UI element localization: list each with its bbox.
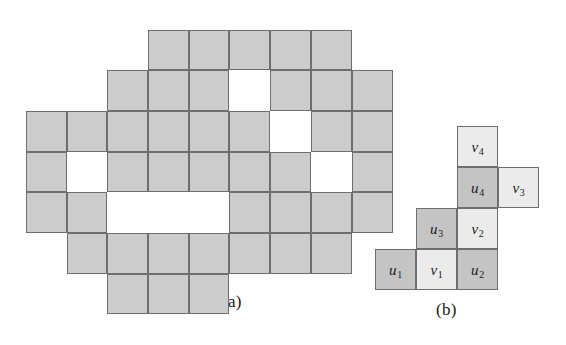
labeled-cell-v3: v3	[498, 167, 539, 208]
panel-b-caption: (b)	[436, 300, 457, 320]
cell-label-v3: v3	[499, 180, 538, 195]
grid-filled-cell	[189, 111, 229, 152]
grid-filled-cell	[189, 30, 229, 70]
grid-filled-cell	[189, 70, 229, 111]
grid-filled-cell	[229, 192, 270, 233]
grid-filled-cell	[270, 30, 311, 70]
grid-filled-cell	[352, 152, 393, 192]
cell-label-v1: v1	[417, 262, 456, 277]
grid-filled-cell	[107, 274, 148, 314]
grid-filled-cell	[270, 152, 311, 192]
grid-filled-cell	[311, 70, 352, 111]
grid-filled-cell	[148, 152, 189, 192]
grid-filled-cell	[270, 233, 311, 274]
labeled-cell-u3: u3	[416, 208, 457, 249]
grid-filled-cell	[107, 233, 148, 274]
grid-filled-cell	[189, 233, 229, 274]
grid-filled-cell	[229, 111, 270, 152]
grid-filled-cell	[352, 111, 393, 152]
labeled-cell-v1: v1	[416, 249, 457, 290]
grid-filled-cell	[352, 192, 393, 233]
grid-hole-cell	[270, 111, 311, 152]
grid-hole-cell	[148, 192, 189, 233]
cell-label-u2: u2	[458, 262, 497, 277]
grid-filled-cell	[26, 152, 67, 192]
grid-filled-cell	[352, 70, 393, 111]
grid-hole-cell	[311, 152, 352, 192]
grid-hole-cell	[67, 152, 107, 192]
grid-filled-cell	[189, 274, 229, 314]
grid-filled-cell	[67, 192, 107, 233]
grid-filled-cell	[270, 192, 311, 233]
grid-hole-cell	[229, 70, 270, 111]
grid-filled-cell	[270, 70, 311, 111]
cell-label-u1: u1	[376, 262, 415, 277]
grid-filled-cell	[107, 111, 148, 152]
grid-filled-cell	[148, 111, 189, 152]
labeled-cell-u2: u2	[457, 249, 498, 290]
labeled-cell-u1: u1	[375, 249, 416, 290]
grid-hole-cell	[189, 192, 229, 233]
grid-filled-cell	[229, 30, 270, 70]
cell-label-u3: u3	[417, 221, 456, 236]
grid-filled-cell	[148, 233, 189, 274]
grid-filled-cell	[311, 233, 352, 274]
grid-filled-cell	[26, 111, 67, 152]
grid-filled-cell	[229, 152, 270, 192]
grid-filled-cell	[67, 233, 107, 274]
figure-root: (a) u1v1u2u3v2u4v3v4 (b)	[0, 0, 566, 345]
labeled-cell-u4: u4	[457, 167, 498, 208]
grid-filled-cell	[67, 111, 107, 152]
grid-filled-cell	[107, 152, 148, 192]
labeled-cell-v2: v2	[457, 208, 498, 249]
grid-filled-cell	[107, 70, 148, 111]
grid-filled-cell	[311, 30, 352, 70]
grid-filled-cell	[148, 30, 189, 70]
grid-filled-cell	[26, 192, 67, 233]
grid-filled-cell	[311, 111, 352, 152]
cell-label-v4: v4	[458, 139, 497, 154]
grid-filled-cell	[229, 233, 270, 274]
grid-filled-cell	[189, 152, 229, 192]
cell-label-v2: v2	[458, 221, 497, 236]
cell-label-u4: u4	[458, 180, 497, 195]
grid-filled-cell	[148, 70, 189, 111]
grid-hole-cell	[107, 192, 148, 233]
grid-filled-cell	[148, 274, 189, 314]
labeled-cell-v4: v4	[457, 126, 498, 167]
grid-filled-cell	[311, 192, 352, 233]
